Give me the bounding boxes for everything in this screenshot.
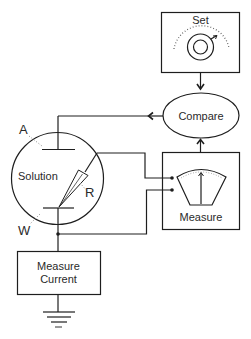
electrode-label-a: A: [19, 122, 28, 137]
potentiostat-diagram: Set Compare Measure Solution Measure Cur…: [0, 0, 251, 339]
meter-gauge-icon: [177, 170, 226, 206]
arrow-compare-to-auxiliary: [58, 113, 163, 150]
electrode-label-r: R: [85, 185, 94, 200]
electrode-label-w: W: [18, 223, 31, 238]
solution-label: Solution: [18, 170, 58, 182]
compare-label: Compare: [178, 110, 223, 122]
ground-icon: [43, 295, 75, 328]
set-label: Set: [192, 14, 209, 26]
wire-reference-to-measure: [97, 153, 172, 178]
wire-working-to-measure: [58, 190, 172, 234]
measure-terminal-working: [170, 188, 174, 192]
measure-current-label-line1: Measure: [37, 260, 80, 272]
measure-terminal-reference: [170, 176, 174, 180]
junction-dot: [56, 232, 60, 236]
measure-label: Measure: [180, 211, 223, 223]
dial-knob-icon: [174, 26, 229, 60]
arrow-set-to-compare: [197, 73, 204, 90]
measure-current-label-line2: Current: [40, 273, 77, 285]
arrow-measure-to-compare: [197, 140, 204, 153]
